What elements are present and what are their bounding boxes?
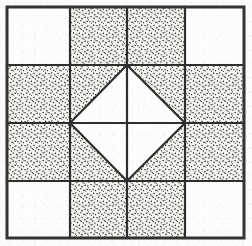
patch-r3c4 [185,123,244,181]
patch-r4c2 [70,181,127,238]
quilt-block-figure [0,0,252,246]
patch-r4c3 [127,181,185,238]
patch-r2c1 [7,65,70,123]
patch-r2c4 [185,65,244,123]
quilt-block-drawing [0,0,252,246]
patch-r3c1 [7,123,70,181]
patch-r1c3 [127,7,185,65]
patch-r1c2 [70,7,127,65]
